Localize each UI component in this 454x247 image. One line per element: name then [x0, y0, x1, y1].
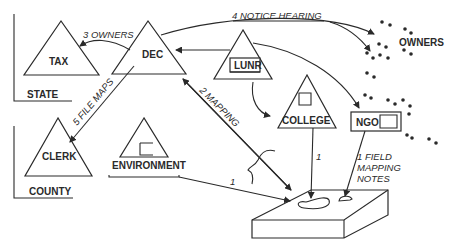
- tax-label: TAX: [49, 56, 69, 67]
- dec-label: DEC: [142, 49, 163, 60]
- edge-label-environment-1: 1: [230, 176, 235, 187]
- lunr-label: LUNR: [234, 60, 263, 71]
- ngo-label: NGO: [356, 117, 379, 128]
- lunr-node: [214, 30, 272, 79]
- edge-label-3-owners: 3 OWNERS: [83, 29, 134, 40]
- edge-label-college-1: 1: [316, 151, 321, 162]
- edge-dec-to-tax: [80, 40, 130, 50]
- edge-label-ngo-line2: MAPPING: [357, 162, 401, 173]
- edge-label-ngo-line1: 1 FIELD: [357, 151, 392, 162]
- clerk-label: CLERK: [42, 151, 77, 162]
- edge-label-5-file-maps: 5 FILE MAPS: [70, 76, 116, 128]
- brace-mark: [248, 150, 275, 184]
- edge-college-to-land: [311, 128, 313, 198]
- clerk-node: [25, 118, 92, 176]
- edge-lunr-to-college: [252, 82, 270, 116]
- county-group-label: COUNTY: [29, 186, 72, 197]
- owners-label: OWNERS: [399, 37, 444, 48]
- edge-label-ngo-line3: NOTES: [357, 173, 390, 184]
- edge-land-to-dec: [183, 79, 291, 190]
- college-label: COLLEGE: [282, 115, 331, 126]
- stakeholder-diagram: STATE COUNTY TAX DEC LUNR COLLEGE NGO CL…: [0, 0, 454, 247]
- state-group-label: STATE: [27, 89, 59, 100]
- edge-dec-to-clerk: [70, 66, 134, 142]
- edge-dec-to-owners-2: [330, 22, 370, 51]
- edge-label-2-mapping: 2 MAPPING: [197, 84, 242, 129]
- environment-label: ENVIRONMENT: [112, 160, 186, 171]
- edge-label-4-notice-hearing: 4 NOTICE HEARING: [232, 10, 322, 21]
